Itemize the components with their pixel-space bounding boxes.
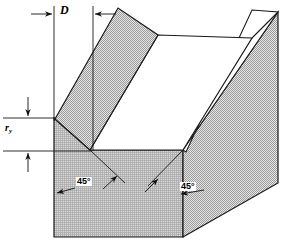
dimension-label-D: D <box>60 4 69 16</box>
angle-label-right: 45° <box>180 182 196 191</box>
figure-canvas: D ry 45° 45° <box>0 0 285 249</box>
angle-label-left: 45° <box>76 177 92 186</box>
v-groove-diagram <box>0 0 285 249</box>
dimension-label-ry-subscript: y <box>9 127 12 135</box>
dimension-label-ry: ry <box>5 123 12 135</box>
